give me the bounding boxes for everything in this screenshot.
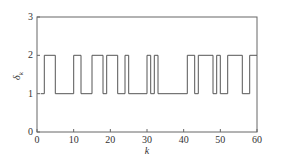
x-tick-label: 50 (215, 134, 225, 145)
step-chart: 0123 0102030405060 k δk (0, 0, 281, 166)
y-tick-label: 2 (28, 49, 33, 60)
delta-k-step-line (41, 55, 257, 93)
y-axis-ticks: 0123 (28, 11, 40, 137)
y-tick-label: 1 (28, 88, 33, 99)
x-tick-label: 0 (35, 134, 40, 145)
x-tick-label: 20 (105, 134, 115, 145)
x-tick-label: 10 (69, 134, 79, 145)
x-axis-label: k (145, 145, 150, 156)
x-tick-label: 40 (179, 134, 189, 145)
y-axis-label: δk (11, 71, 25, 80)
x-tick-label: 60 (252, 134, 262, 145)
x-tick-label: 30 (142, 134, 152, 145)
y-tick-label: 0 (28, 126, 33, 137)
x-axis-ticks: 0102030405060 (35, 129, 263, 145)
y-tick-label: 3 (28, 11, 33, 22)
